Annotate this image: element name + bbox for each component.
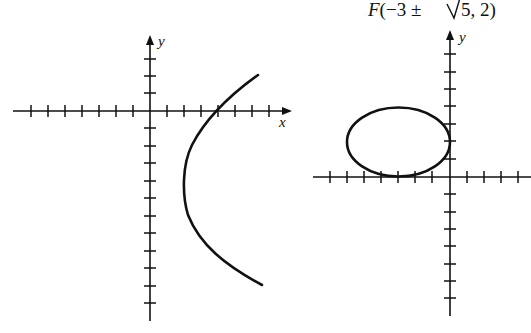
caption-F: F (367, 0, 380, 20)
left-y-label: y (156, 33, 165, 49)
right-graph: y (313, 29, 531, 316)
svg-text:F(−3 ±: F(−3 ± (367, 0, 421, 21)
caption-root: 5 (461, 0, 471, 20)
hyperbola-branch (184, 75, 262, 285)
foci-caption: F(−3 ± 5, 2) (367, 0, 496, 21)
right-y-label: y (457, 29, 466, 45)
figure-canvas: x y (0, 0, 531, 333)
ellipse-curve (347, 108, 450, 177)
left-x-label: x (278, 114, 286, 130)
left-graph: x y (13, 33, 290, 321)
caption-close: , 2) (471, 0, 496, 21)
caption-open: (−3 ± (380, 0, 422, 21)
svg-text:5, 2): 5, 2) (461, 0, 496, 21)
